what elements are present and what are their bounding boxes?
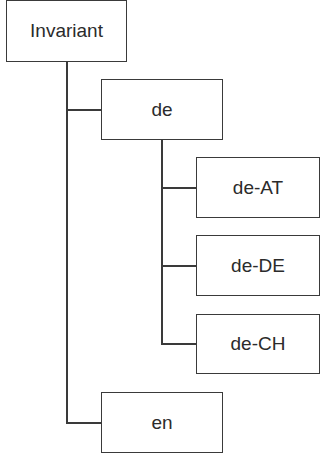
branch-line-de [66, 109, 101, 111]
node-label: de-AT [233, 177, 283, 199]
branch-line-de-de [161, 265, 196, 267]
branch-line-de-ch [161, 343, 196, 345]
branch-line-en [66, 422, 101, 424]
node-label: de [151, 99, 172, 121]
node-label: de-CH [231, 333, 286, 355]
node-de: de [101, 79, 223, 140]
node-en: en [101, 392, 223, 453]
node-label: de-DE [231, 255, 285, 277]
branch-line-de-at [161, 187, 196, 189]
node-de-ch: de-CH [196, 314, 320, 374]
node-de-at: de-AT [196, 157, 320, 218]
trunk-line-de [161, 139, 163, 344]
node-de-de: de-DE [196, 235, 320, 296]
node-label: Invariant [30, 20, 103, 42]
node-invariant: Invariant [6, 0, 127, 62]
trunk-line-invariant [66, 61, 68, 423]
node-label: en [151, 412, 172, 434]
